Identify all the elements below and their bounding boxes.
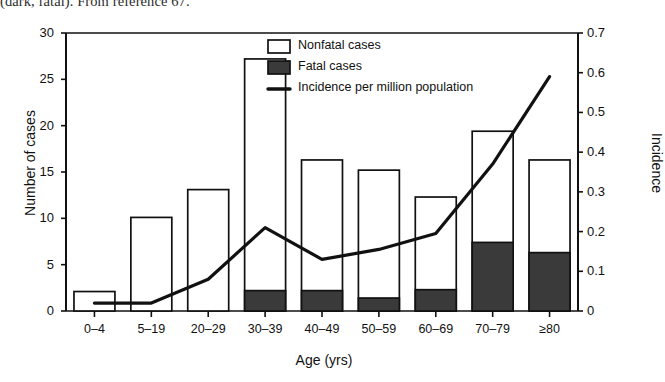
y-axis-right-tick-7: 0.7 bbox=[587, 25, 631, 40]
y-axis-right-tick-2: 0.2 bbox=[587, 224, 631, 239]
x-axis-tick-8: ≥80 bbox=[515, 322, 585, 336]
y-axis-right-tick-4: 0.4 bbox=[587, 144, 631, 159]
y-axis-right-tick-3: 0.3 bbox=[587, 184, 631, 199]
y-axis-right-tick-0: 0 bbox=[587, 303, 631, 318]
legend-item-1: Fatal cases bbox=[298, 59, 362, 73]
y-axis-left-tick-6: 30 bbox=[14, 25, 54, 40]
y-axis-right-tick-1: 0.1 bbox=[587, 263, 631, 278]
y-axis-right-tick-6: 0.6 bbox=[587, 65, 631, 80]
y-axis-left-tick-2: 10 bbox=[14, 210, 54, 225]
legend-item-0: Nonfatal cases bbox=[298, 38, 381, 52]
y-axis-left-tick-0: 0 bbox=[14, 303, 54, 318]
y-axis-right-tick-5: 0.5 bbox=[587, 104, 631, 119]
y-axis-left-tick-1: 5 bbox=[14, 257, 54, 272]
y-axis-left-tick-4: 20 bbox=[14, 118, 54, 133]
y-axis-left-tick-5: 25 bbox=[14, 71, 54, 86]
x-axis-title: Age (yrs) bbox=[0, 352, 648, 368]
legend-item-2: Incidence per million population bbox=[298, 80, 473, 94]
y-axis-left-tick-3: 15 bbox=[14, 164, 54, 179]
y-axis-right-title: Incidence bbox=[649, 78, 665, 248]
